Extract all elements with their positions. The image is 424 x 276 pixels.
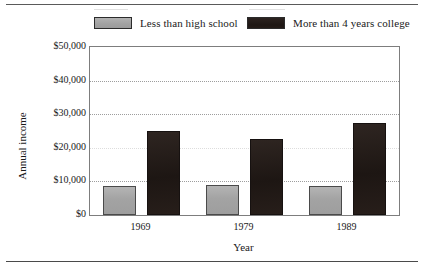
legend-swatch-icon <box>247 17 285 29</box>
y-axis-tick-label: $30,000 <box>0 108 86 118</box>
y-axis-ticks: $50,000 $40,000 $30,000 $20,000 $10,000 … <box>0 46 86 214</box>
chart-legend: Less than high school More than 4 years … <box>0 15 424 37</box>
y-axis-tick-label: $0 <box>0 209 86 219</box>
legend-item-less-than-high-school: Less than high school <box>94 15 238 31</box>
legend-item-more-than-4-years-college: More than 4 years college <box>247 15 410 31</box>
bar-more-than-4-years-college-1989 <box>353 123 386 215</box>
legend-label: Less than high school <box>140 17 238 29</box>
y-axis-tick-label: $40,000 <box>0 75 86 85</box>
bar-less-than-high-school-1979 <box>206 185 239 215</box>
x-axis-tick-label: 1969 <box>89 221 192 232</box>
bar-group-1989 <box>296 47 399 215</box>
legend-swatch-icon <box>94 17 132 29</box>
bar-group-1969 <box>90 47 193 215</box>
bar-more-than-4-years-college-1969 <box>147 131 180 215</box>
x-axis-tick-label: 1979 <box>192 221 295 232</box>
y-axis-tick-label: $50,000 <box>0 41 86 51</box>
bar-group-1979 <box>193 47 296 215</box>
bar-less-than-high-school-1969 <box>103 186 136 215</box>
page-rule-top <box>6 4 418 5</box>
x-axis-title: Year <box>89 241 398 253</box>
y-axis-tick-label: $10,000 <box>0 175 86 185</box>
bar-chart-figure: Less than high school More than 4 years … <box>0 8 424 258</box>
bar-less-than-high-school-1989 <box>309 186 342 215</box>
bar-more-than-4-years-college-1979 <box>250 139 283 215</box>
x-axis-ticks: 1969 1979 1989 <box>89 221 398 232</box>
legend-label: More than 4 years college <box>293 17 410 29</box>
page-rule-bottom <box>6 261 418 262</box>
y-axis-tick-label: $20,000 <box>0 142 86 152</box>
x-axis-tick-label: 1989 <box>295 221 398 232</box>
y-axis-title: Annual income <box>16 101 28 191</box>
bar-groups <box>90 47 399 215</box>
plot-area <box>89 46 400 216</box>
